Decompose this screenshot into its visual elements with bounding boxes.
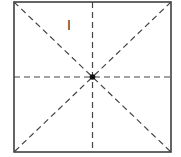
region-label: I	[67, 17, 71, 33]
diagram-canvas: I	[0, 0, 181, 157]
center-point	[90, 74, 96, 80]
